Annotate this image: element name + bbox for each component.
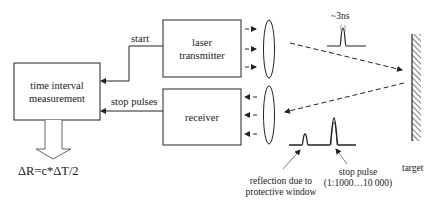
laser-transmitter-label: laser transmitter [163, 20, 241, 77]
start-label: start [131, 33, 149, 45]
receiver-text: receiver [185, 111, 219, 124]
target-label: target [402, 162, 423, 174]
reflection-line1: reflection due to [235, 176, 327, 187]
laser-transmitter-line2: transmitter [179, 49, 225, 62]
range-formula: ΔR=c*ΔT/2 [18, 164, 79, 178]
time-interval-line1: time interval [30, 79, 83, 92]
start-connector [101, 46, 163, 81]
stop-pulse-line1: stop pulse [318, 167, 398, 178]
pulse-width-label: ~3ns [331, 10, 349, 22]
received-beams [245, 97, 257, 134]
reflection-annotation: reflection due to protective window [235, 176, 327, 198]
transmitted-pulse [327, 28, 366, 46]
time-interval-label: time interval measurement [14, 63, 100, 120]
laser-transmitter-line1: laser [192, 36, 212, 49]
transmitted-beams [245, 29, 256, 67]
output-arrow [36, 120, 71, 159]
time-interval-line2: measurement [29, 92, 85, 105]
received-pulses [289, 118, 356, 145]
return-beam [285, 83, 404, 112]
reflection-line2: protective window [235, 187, 327, 198]
target-hatching [412, 34, 421, 141]
outgoing-beam [290, 43, 402, 70]
receiver-label: receiver [163, 89, 241, 145]
stop-pulse-annotation: stop pulse (1:1000…10 000) [318, 167, 398, 189]
transmit-lens [264, 20, 275, 78]
receive-lens [264, 86, 275, 144]
stop-pulse-line2: (1:1000…10 000) [318, 178, 398, 189]
reflection-pointer [283, 150, 300, 169]
stop-pulse-pointer [336, 149, 347, 164]
stop-pulses-label: stop pulses [111, 96, 157, 108]
